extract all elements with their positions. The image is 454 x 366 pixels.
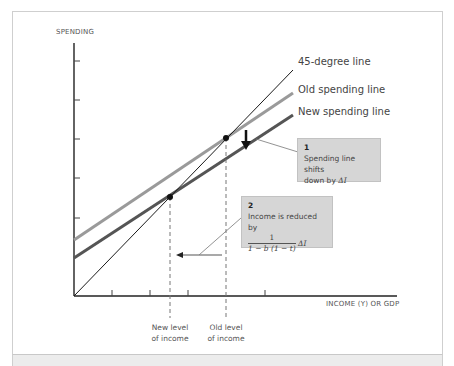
y-ticks — [74, 61, 80, 218]
callout-1-number: 1 — [304, 142, 374, 153]
new-income-label-line2: of income — [148, 333, 192, 344]
diagram-plot — [0, 0, 454, 366]
x-axis-label: INCOME (Y) OR GDP — [326, 300, 399, 308]
callout-2-leader — [199, 218, 241, 255]
new-income-label: New level of income — [148, 322, 192, 344]
callout-2-formula: 1 1 − b (1 − t) ΔI — [248, 233, 326, 254]
old-income-label-line1: Old level — [204, 322, 248, 333]
callout-2: 2 Income is reduced by 1 1 − b (1 − t) Δ… — [241, 196, 333, 248]
diagram-canvas: SPENDING INCOME (Y) OR GDP 45-degree lin… — [0, 0, 454, 366]
new-equilibrium-point — [167, 194, 173, 200]
callout-2-number: 2 — [248, 200, 326, 211]
fraction-numerator: 1 — [248, 233, 296, 244]
callout-1-text-line2: down by ΔI — [304, 175, 374, 186]
45-degree-line-label: 45-degree line — [298, 56, 371, 67]
delta-i-symbol: ΔI — [338, 176, 346, 185]
new-spending-line-label: New spending line — [298, 106, 390, 117]
callout-2-text: Income is reduced by — [248, 211, 326, 233]
delta-i-symbol: ΔI — [298, 239, 306, 248]
45-degree-line — [74, 70, 293, 296]
old-spending-line-label: Old spending line — [298, 84, 385, 95]
fraction-denominator: 1 − b (1 − t) — [248, 244, 296, 254]
old-equilibrium-point — [223, 135, 229, 141]
callout-1-leader — [256, 139, 298, 152]
y-axis-label: SPENDING — [56, 28, 94, 36]
callout-1-text-line1: Spending line shifts — [304, 153, 374, 175]
old-income-label-line2: of income — [204, 333, 248, 344]
new-income-label-line1: New level — [148, 322, 192, 333]
old-income-label: Old level of income — [204, 322, 248, 344]
callout-1: 1 Spending line shifts down by ΔI — [297, 138, 381, 182]
x-ticks — [112, 290, 265, 296]
multiplier-fraction: 1 1 − b (1 − t) — [248, 233, 296, 254]
callout-1-text-down-by: down by — [304, 176, 336, 185]
